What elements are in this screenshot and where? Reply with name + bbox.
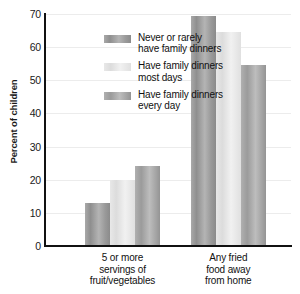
legend-item-every-day: Have family dinners every day xyxy=(104,89,254,111)
plot-area: Never or rarely have family dinners Have… xyxy=(45,14,291,246)
bar-group-0-series-2 xyxy=(135,166,160,246)
bar-group-0-series-0 xyxy=(85,203,110,246)
y-axis-tick-10: 10 xyxy=(0,207,41,219)
y-axis-tick-20: 20 xyxy=(0,174,41,186)
legend-item-never-or-rarely: Never or rarely have family dinners xyxy=(104,32,254,54)
y-axis-tick-40: 40 xyxy=(0,107,41,119)
y-axis-tick-60: 60 xyxy=(0,41,41,53)
bar-chart: Percent of children 010203040506070 Neve… xyxy=(0,0,300,294)
legend-label-series-0: Never or rarely have family dinners xyxy=(138,32,221,54)
legend-item-most-days: Have family dinners most days xyxy=(104,60,254,82)
x-axis-category-label-1: Any fried food away from home xyxy=(168,252,288,287)
legend-label-series-1: Have family dinners most days xyxy=(138,60,223,82)
legend-swatch-icon-series-0 xyxy=(104,35,131,43)
y-axis-tick-0: 0 xyxy=(0,240,41,252)
legend-swatch-icon-series-2 xyxy=(104,92,131,100)
legend-label-series-2: Have family dinners every day xyxy=(138,89,223,111)
y-axis-tick-30: 30 xyxy=(0,141,41,153)
x-axis-line xyxy=(44,245,292,247)
chart-legend: Never or rarely have family dinners Have… xyxy=(104,32,254,117)
y-axis-tick-50: 50 xyxy=(0,74,41,86)
gridline xyxy=(45,14,291,15)
legend-swatch-icon-series-1 xyxy=(104,63,131,71)
bar-group-0-series-1 xyxy=(110,180,135,246)
x-axis-category-label-0: 5 or more servings of fruit/vegetables xyxy=(62,252,182,287)
y-axis-line xyxy=(44,13,46,247)
y-axis-tick-70: 70 xyxy=(0,8,41,20)
